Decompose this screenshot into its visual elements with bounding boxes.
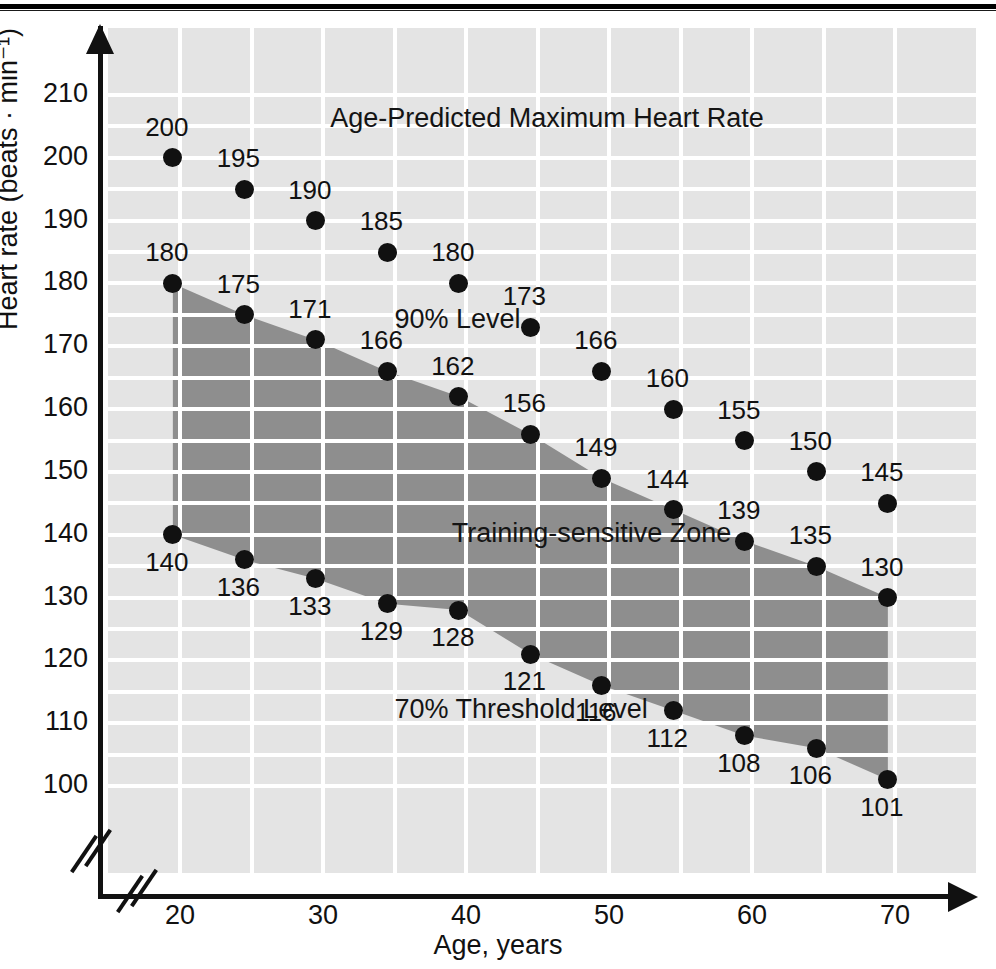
- y-tick-label: 180: [43, 266, 88, 297]
- y-tick-label: 110: [45, 706, 88, 737]
- data-point-label: 200: [145, 112, 188, 143]
- data-point-marker: [378, 362, 397, 381]
- data-point-label: 180: [145, 237, 188, 268]
- gridline-horizontal: [108, 470, 976, 474]
- data-point-marker: [807, 557, 826, 576]
- gridline-horizontal: [108, 376, 976, 380]
- data-point-marker: [735, 532, 754, 551]
- data-point-label: 166: [360, 325, 403, 356]
- data-point-label: 112: [647, 723, 688, 754]
- data-point-label: 150: [789, 426, 832, 457]
- data-point-label: 136: [217, 572, 260, 603]
- data-point-marker: [664, 701, 683, 720]
- gridline-vertical: [536, 28, 540, 873]
- data-point-label: 144: [646, 464, 689, 495]
- gridline-horizontal: [108, 93, 976, 97]
- y-tick-label: 120: [43, 643, 88, 674]
- data-point-label: 160: [646, 363, 689, 394]
- x-tick-label: 60: [712, 900, 792, 931]
- data-point-label: 135: [789, 520, 832, 551]
- data-point-label: 195: [217, 143, 260, 174]
- gridline-vertical: [393, 28, 397, 873]
- data-point-label: 139: [717, 495, 760, 526]
- gridline-horizontal: [108, 250, 976, 254]
- data-point-label: 155: [717, 395, 760, 426]
- data-point-label: 173: [503, 281, 546, 312]
- data-point-label: 190: [288, 175, 331, 206]
- data-point-label: 171: [288, 294, 331, 325]
- data-point-label: 129: [360, 616, 403, 647]
- data-point-label: 130: [860, 552, 903, 583]
- gridline-horizontal: [108, 219, 976, 223]
- data-point-label: 145: [860, 457, 903, 488]
- y-tick-label: 210: [43, 78, 88, 109]
- y-tick-label: 100: [43, 769, 88, 800]
- x-axis-arrow-icon: [948, 882, 978, 912]
- y-tick-label: 200: [43, 141, 88, 172]
- x-tick-label: 50: [569, 900, 649, 931]
- data-point-marker: [521, 318, 540, 337]
- y-tick-label: 190: [43, 204, 88, 235]
- y-axis-line: [98, 26, 103, 898]
- gridline-horizontal: [108, 439, 976, 443]
- gridline-horizontal: [108, 344, 976, 348]
- data-point-label: 180: [431, 237, 474, 268]
- data-point-label: 185: [360, 206, 403, 237]
- x-axis-line: [98, 894, 952, 899]
- gridline-vertical: [464, 28, 468, 873]
- data-point-label: 162: [431, 351, 474, 382]
- y-tick-label: 150: [43, 455, 88, 486]
- data-point-label: 116: [575, 697, 616, 728]
- data-point-marker: [664, 400, 683, 419]
- gridline-horizontal: [108, 753, 976, 757]
- gridline-vertical: [321, 28, 325, 873]
- data-point-marker: [449, 601, 468, 620]
- data-point-marker: [664, 500, 683, 519]
- gridline-vertical: [893, 28, 897, 873]
- data-point-marker: [592, 469, 611, 488]
- data-point-marker: [521, 645, 540, 664]
- chart-annotation: Age-Predicted Maximum Heart Rate: [330, 103, 764, 134]
- y-tick-label: 140: [43, 518, 88, 549]
- data-point-marker: [521, 425, 540, 444]
- chart-figure: Age-Predicted Maximum Heart Rate90% Leve…: [0, 0, 996, 969]
- data-point-label: 121: [503, 666, 546, 697]
- data-point-label: 101: [860, 792, 903, 823]
- x-tick-label: 20: [140, 900, 220, 931]
- gridline-horizontal: [108, 658, 976, 662]
- y-axis-arrow-icon: [86, 24, 114, 54]
- x-tick-label: 70: [855, 900, 935, 931]
- plot-area: Age-Predicted Maximum Heart Rate90% Leve…: [108, 28, 976, 873]
- data-point-label: 166: [574, 325, 617, 356]
- y-axis-title: Heart rate (beats · min⁻¹): [0, 0, 24, 330]
- gridline-vertical: [750, 28, 754, 873]
- data-point-marker: [807, 739, 826, 758]
- gridline-horizontal: [108, 501, 976, 505]
- x-tick-label: 30: [283, 900, 363, 931]
- data-point-label: 133: [288, 591, 331, 622]
- data-point-label: 156: [503, 388, 546, 419]
- chart-annotation: Training-sensitive Zone: [452, 518, 732, 549]
- gridline-horizontal: [108, 784, 976, 788]
- top-rule-divider: [0, 4, 996, 9]
- data-point-marker: [378, 243, 397, 262]
- x-tick-label: 40: [426, 900, 506, 931]
- data-point-label: 149: [574, 432, 617, 463]
- y-tick-label: 170: [43, 329, 88, 360]
- x-axis-title: Age, years: [0, 930, 996, 961]
- data-point-marker: [235, 180, 254, 199]
- data-point-label: 108: [717, 748, 760, 779]
- data-point-label: 140: [145, 547, 188, 578]
- data-point-label: 106: [789, 760, 832, 791]
- gridline-horizontal: [108, 627, 976, 631]
- y-tick-label: 160: [43, 392, 88, 423]
- data-point-label: 175: [217, 269, 260, 300]
- y-tick-label: 130: [43, 581, 88, 612]
- data-point-label: 128: [431, 622, 474, 653]
